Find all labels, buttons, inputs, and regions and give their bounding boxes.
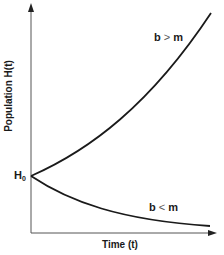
greater-than-symbol: > (164, 31, 170, 43)
h0-subscript: 0 (22, 175, 26, 182)
y-axis-label: Population H(t) (3, 60, 14, 132)
decay-curve-label: b < m (149, 201, 178, 213)
decay-b: b (149, 201, 156, 213)
decay-m: m (168, 201, 178, 213)
decay-curve (31, 176, 210, 226)
h0-main: H (14, 169, 22, 181)
x-axis-arrow-icon (208, 230, 217, 236)
x-axis-label: Time (t) (102, 239, 138, 250)
growth-m: m (173, 31, 183, 43)
population-growth-diagram (0, 0, 224, 255)
growth-curve-label: b > m (154, 31, 183, 43)
less-than-symbol: < (159, 201, 165, 213)
initial-value-label: H0 (14, 169, 26, 182)
growth-b: b (154, 31, 161, 43)
growth-curve (31, 13, 211, 176)
y-axis-arrow-icon (28, 3, 34, 12)
